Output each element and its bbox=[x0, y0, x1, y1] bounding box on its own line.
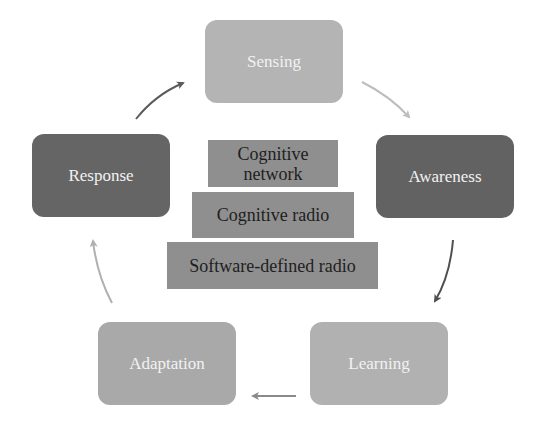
node-response: Response bbox=[32, 134, 170, 217]
node-awareness-label: Awareness bbox=[408, 167, 481, 187]
arrow-adaptation-to-response bbox=[93, 241, 112, 303]
arrow-sensing-to-awareness bbox=[362, 82, 409, 117]
layer-cognitive-network: Cognitive network bbox=[208, 140, 338, 187]
layer-cognitive-radio-label: Cognitive radio bbox=[217, 205, 329, 225]
cognitive-cycle-diagram: Sensing Awareness Learning Adaptation Re… bbox=[0, 0, 539, 430]
node-learning-label: Learning bbox=[348, 354, 409, 374]
arrow-response-to-sensing bbox=[136, 83, 183, 119]
node-awareness: Awareness bbox=[376, 135, 514, 218]
node-sensing-label: Sensing bbox=[247, 52, 301, 72]
layer-cognitive-radio: Cognitive radio bbox=[192, 192, 354, 238]
node-sensing: Sensing bbox=[205, 20, 343, 103]
layer-cognitive-network-label: Cognitive network bbox=[228, 144, 318, 184]
node-adaptation: Adaptation bbox=[98, 322, 236, 405]
layer-software-defined-radio: Software-defined radio bbox=[167, 242, 378, 289]
node-adaptation-label: Adaptation bbox=[129, 354, 205, 374]
node-learning: Learning bbox=[310, 322, 448, 405]
layer-software-defined-radio-label: Software-defined radio bbox=[189, 256, 355, 276]
node-response-label: Response bbox=[68, 166, 133, 186]
arrow-awareness-to-learning bbox=[435, 240, 453, 301]
